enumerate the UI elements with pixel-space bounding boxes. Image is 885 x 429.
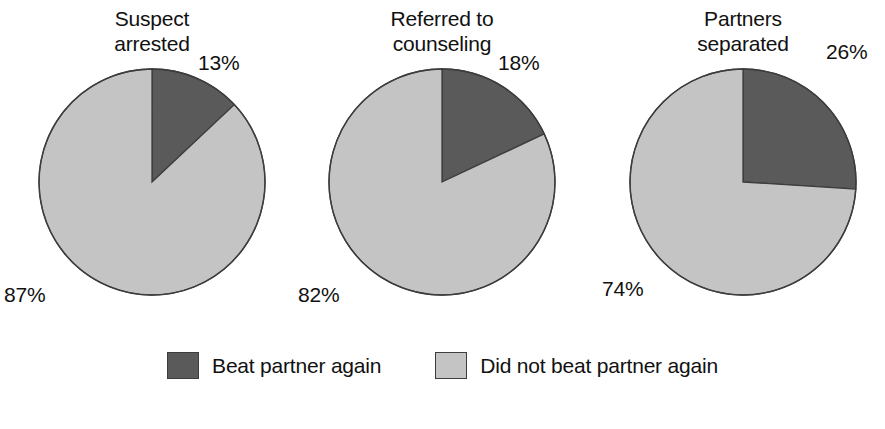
chart-legend: Beat partner again Did not beat partner … [0,352,885,379]
pie-canvas-referred-to-counseling [312,62,572,302]
legend-swatch-did-not-beat-again-icon [435,352,467,379]
legend-item-beat-again: Beat partner again [167,352,381,379]
pie-graphic-referred-to-counseling [322,62,562,302]
pie-canvas-partners-separated [613,62,873,302]
legend-item-did-not-beat-again: Did not beat partner again [435,352,718,379]
pie-slice-label-beat-again-suspect-arrested: 13% [198,51,239,75]
pie-slice-label-beat-again-partners-separated: 26% [826,40,867,64]
pie-slice-label-did-not-beat-again-partners-separated: 74% [602,277,643,301]
legend-label-beat-again: Beat partner again [212,354,381,378]
pie-title-referred-to-counseling: Referred to counseling [312,6,572,56]
pie-slice-label-did-not-beat-again-suspect-arrested: 87% [4,283,45,307]
pie-chart-figure: Suspect arrested 13% 87% Referred to cou… [0,0,885,429]
pie-chart-suspect-arrested: Suspect arrested 13% 87% [22,0,282,340]
pie-chart-partners-separated: Partners separated 26% 74% [613,0,873,340]
legend-label-did-not-beat-again: Did not beat partner again [480,354,718,378]
pie-slice-label-beat-again-referred-to-counseling: 18% [498,51,539,75]
pie-canvas-suspect-arrested [22,62,282,302]
pie-slice [743,69,856,189]
pie-graphic-partners-separated [623,62,863,302]
legend-swatch-beat-again-icon [167,352,199,379]
pie-slice-label-did-not-beat-again-referred-to-counseling: 82% [298,283,339,307]
pie-chart-referred-to-counseling: Referred to counseling 18% 82% [312,0,572,340]
pie-graphic-suspect-arrested [32,62,272,302]
pie-title-suspect-arrested: Suspect arrested [22,6,282,56]
